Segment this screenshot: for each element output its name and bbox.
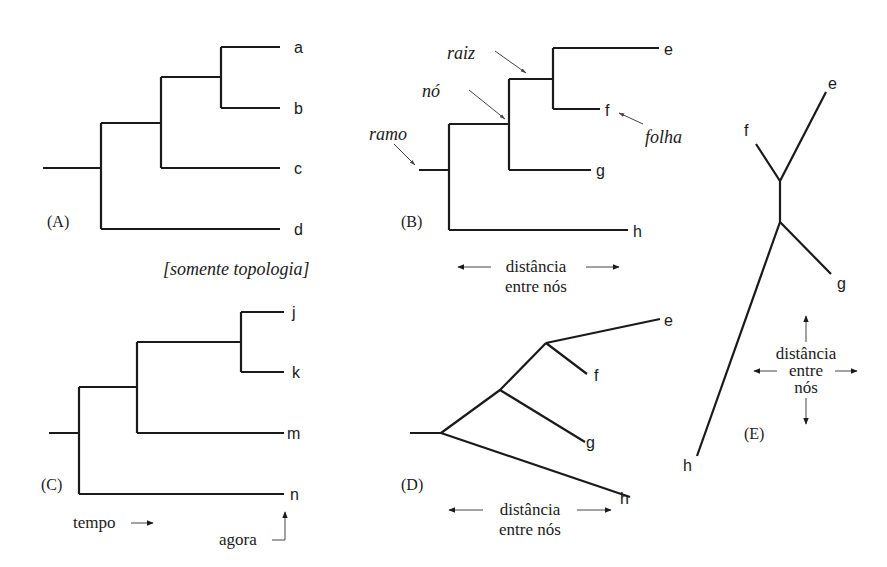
leaf-label-h: h (620, 490, 629, 507)
leaf-label-a: a (294, 39, 303, 56)
leaf-label-m: m (287, 425, 300, 442)
leaf-pointer-arrow-icon (619, 113, 643, 124)
leaf-label-e: e (828, 75, 837, 92)
leaf-label-f: f (594, 367, 599, 384)
leaf-label-c: c (294, 160, 302, 177)
distance-scale-label-line1: distância (506, 257, 567, 276)
panel-e-unrooted-tree: e f g h (E) distância entre nós (683, 75, 857, 474)
panel-d-slanted-tree: e f g h (D) distância entre nós (401, 312, 673, 539)
distance-scale-label-line3: nós (794, 378, 818, 397)
panel-a-cladogram: a b c d (A) [somente topologia] (43, 39, 310, 279)
panel-c-chronogram: j k m n (C) tempo agora (41, 304, 301, 549)
leaf-annotation: folha (645, 127, 682, 147)
panel-label-d: (D) (401, 476, 423, 494)
leaf-label-e: e (664, 41, 673, 58)
leaf-label-d: d (294, 221, 303, 238)
leaf-label-g: g (596, 162, 605, 179)
leaf-label-f: f (744, 122, 749, 139)
distance-scale-label-line2: entre nós (505, 277, 567, 296)
root-pointer-arrow-icon (495, 51, 526, 73)
now-label: agora (219, 530, 257, 549)
panel-label-b: (B) (401, 213, 422, 231)
leaf-label-e: e (664, 312, 673, 329)
panel-label-a: (A) (47, 213, 69, 231)
leaf-label-g: g (837, 275, 846, 292)
branch-pointer-arrow-icon (394, 144, 415, 165)
now-arrow-icon (272, 512, 285, 540)
panel-label-e: (E) (744, 425, 764, 443)
time-axis-label: tempo (73, 513, 116, 532)
branch-annotation: ramo (369, 124, 407, 144)
leaf-label-h: h (633, 223, 642, 240)
distance-scale-label-line1: distância (500, 500, 561, 519)
phylogenetic-trees-figure: a b c d (A) [somente topologia] e f g h … (0, 0, 887, 567)
leaf-label-f: f (605, 102, 610, 119)
leaf-label-g: g (586, 434, 595, 451)
leaf-label-k: k (292, 364, 301, 381)
root-annotation: raiz (447, 43, 475, 63)
node-annotation: nó (422, 81, 440, 101)
distance-scale-label-line2: entre nós (499, 520, 561, 539)
leaf-label-b: b (294, 100, 303, 117)
panel-label-c: (C) (41, 476, 62, 494)
leaf-label-j: j (291, 304, 296, 321)
leaf-label-h: h (683, 457, 692, 474)
panel-b-phylogram: e f g h (B) raiz nó ramo folha distância… (369, 41, 682, 296)
leaf-label-n: n (290, 486, 299, 503)
topology-only-caption: [somente topologia] (163, 259, 310, 279)
node-pointer-arrow-icon (469, 90, 505, 119)
